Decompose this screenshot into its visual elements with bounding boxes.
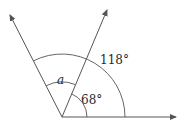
label-68: 68° <box>81 93 102 107</box>
left-ray <box>10 15 62 117</box>
angle-diagram: 118° 68° a <box>0 0 186 137</box>
label-118: 118° <box>100 53 129 67</box>
label-a: a <box>57 73 64 87</box>
